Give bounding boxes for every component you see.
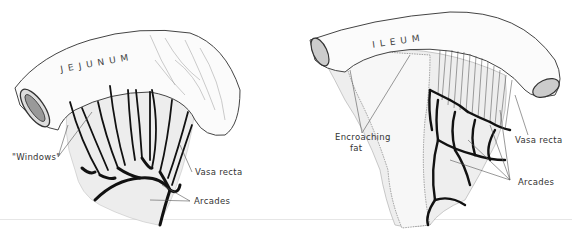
jejunum-arcades-label: Arcades (194, 197, 230, 206)
jejunum-illustration (0, 0, 290, 238)
windows-label: "Windows" (12, 153, 60, 162)
encroaching-fat-label-line1: Encroaching (335, 133, 391, 142)
ileum-arcades-label: Arcades (518, 178, 554, 187)
jejunum-vasa-recta-label: Vasa recta (195, 168, 242, 177)
ileum-panel: ILEUM Encroaching fat Vasa recta Arcades (290, 0, 572, 238)
encroaching-fat-label-line2: fat (350, 144, 362, 153)
jejunum-panel: JEJUNUM "Windows" Vasa recta Arcades (0, 0, 290, 238)
ileum-vasa-recta-label: Vasa recta (515, 136, 562, 145)
ileum-illustration (290, 0, 572, 238)
